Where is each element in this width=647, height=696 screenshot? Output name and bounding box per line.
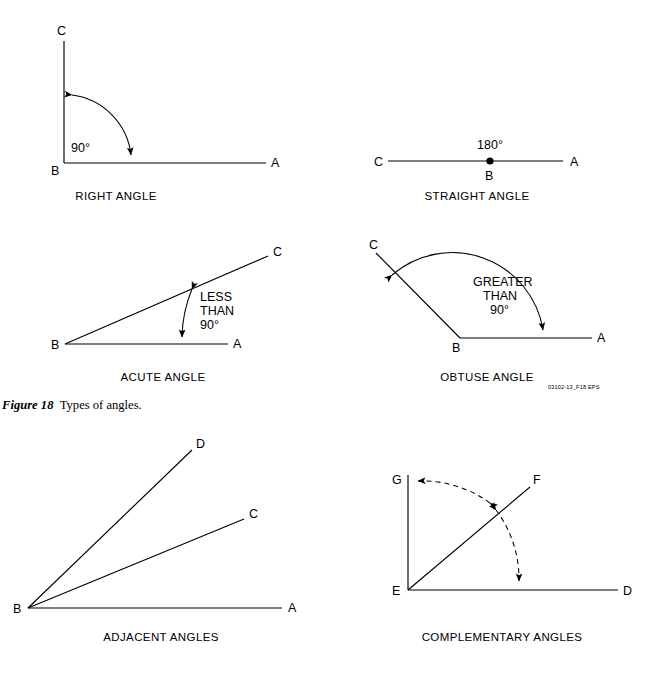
obtuse-note-line-1: GREATER <box>473 275 533 289</box>
figure-caption: Figure 18 Types of angles. <box>2 398 142 413</box>
ray-ef <box>408 487 530 590</box>
obtuse-note-line-2: THAN <box>483 289 517 303</box>
vertex-label-d: D <box>623 584 632 598</box>
vertex-label-a: A <box>233 337 242 351</box>
complementary-arc-upper <box>418 481 490 503</box>
panel-straight-angle: C B A 180° STRAIGHT ANGLE <box>374 138 579 202</box>
figure-caption-text: Types of angles. <box>60 398 142 412</box>
panel-title-acute-angle: ACUTE ANGLE <box>121 371 206 383</box>
angle-measure-90: 90° <box>71 141 90 155</box>
vertex-label-e: E <box>392 584 400 598</box>
angle-measure-180: 180° <box>477 138 503 152</box>
vertex-label-c: C <box>249 507 258 521</box>
panel-title-complementary-angles: COMPLEMENTARY ANGLES <box>422 631 583 643</box>
panel-right-angle: C B A 90° RIGHT ANGLE <box>51 24 280 202</box>
vertex-label-c: C <box>273 245 282 259</box>
complementary-arc-lower <box>496 510 519 581</box>
vertex-dot-b <box>486 157 493 164</box>
obtuse-note-line-3: 90° <box>490 303 509 317</box>
panel-title-right-angle: RIGHT ANGLE <box>75 190 157 202</box>
panel-obtuse-angle: C B A GREATER THAN 90° OBTUSE ANGLE 0310… <box>369 238 606 390</box>
vertex-label-c: C <box>57 24 66 38</box>
ray-bc <box>28 519 244 608</box>
vertex-label-d: D <box>196 437 205 451</box>
vertex-label-b: B <box>13 602 21 616</box>
acute-note-line-3: 90° <box>200 318 219 332</box>
acute-angle-arc <box>182 289 192 337</box>
ray-bc <box>65 256 268 344</box>
panel-title-obtuse-angle: OBTUSE ANGLE <box>440 371 534 383</box>
vertex-label-b: B <box>51 164 59 178</box>
acute-note-line-1: LESS <box>200 290 232 304</box>
eps-code-label: 03102-13_F18.EPS <box>548 384 600 390</box>
vertex-label-c: C <box>374 155 383 169</box>
vertex-label-a: A <box>597 331 606 345</box>
vertex-label-c: C <box>369 238 378 252</box>
acute-note-line-2: THAN <box>200 304 234 318</box>
panel-complementary-angles: G F E D COMPLEMENTARY ANGLES <box>392 473 632 643</box>
vertex-label-a: A <box>288 601 297 615</box>
ray-bc <box>376 253 460 338</box>
figure-caption-id: Figure 18 <box>2 398 53 412</box>
vertex-label-f: F <box>533 473 541 487</box>
vertex-label-a: A <box>570 155 579 169</box>
vertex-label-b: B <box>452 341 460 355</box>
ray-bd <box>28 450 192 608</box>
vertex-label-b: B <box>51 338 59 352</box>
panel-title-straight-angle: STRAIGHT ANGLE <box>424 190 529 202</box>
panel-title-adjacent-angles: ADJACENT ANGLES <box>103 631 219 643</box>
figure-sheet: C B A 90° RIGHT ANGLE C B A 180° STRAIGH… <box>0 0 647 696</box>
panel-adjacent-angles: D C B A ADJACENT ANGLES <box>13 437 297 643</box>
vertex-label-g: G <box>392 473 402 487</box>
vertex-label-b: B <box>485 169 493 183</box>
panel-acute-angle: C B A LESS THAN 90° ACUTE ANGLE <box>51 245 282 383</box>
angles-diagram: C B A 90° RIGHT ANGLE C B A 180° STRAIGH… <box>0 0 647 696</box>
vertex-label-a: A <box>271 156 280 170</box>
